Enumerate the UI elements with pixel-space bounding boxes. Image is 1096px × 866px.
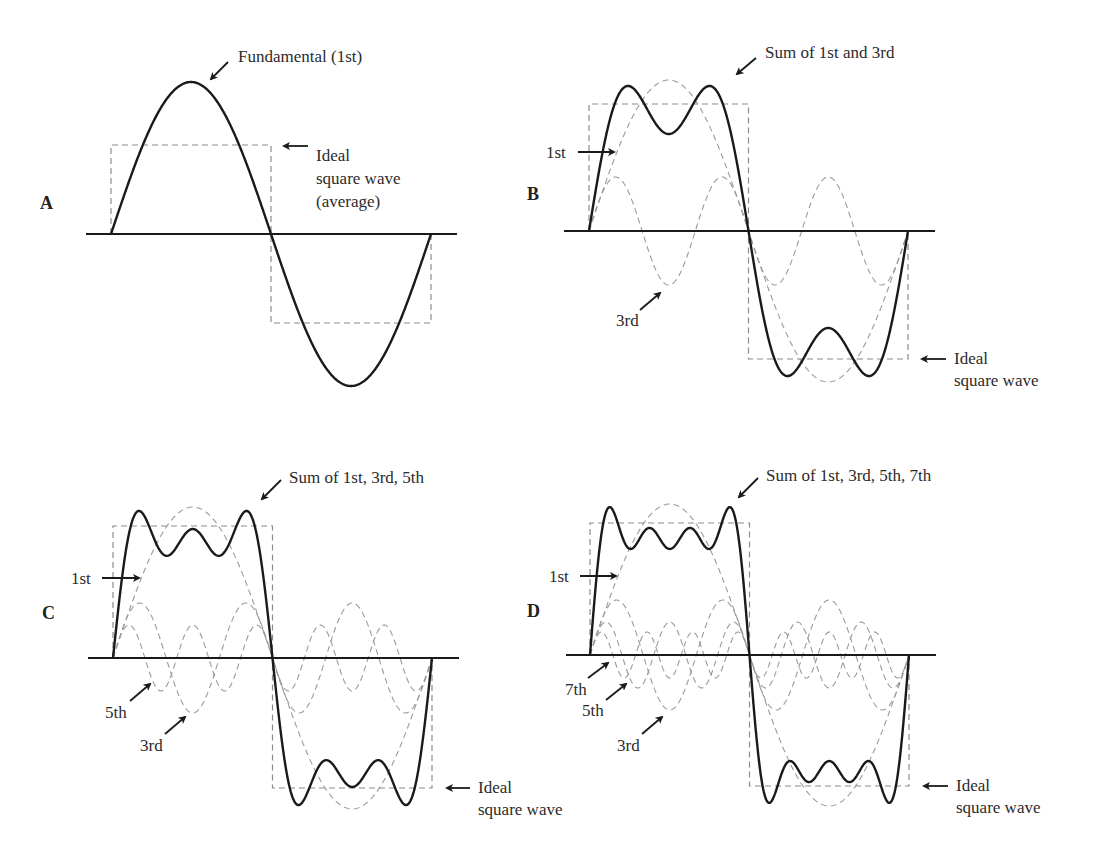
label-harmonic-3rd-b: 3rd [616, 310, 639, 332]
arrow-icon [737, 58, 756, 74]
label-harmonic-3rd-d: 3rd [617, 735, 640, 757]
label-sum-d: Sum of 1st, 3rd, 5th, 7th [766, 465, 931, 487]
harmonic-waves [111, 80, 909, 809]
panel-letter-a: A [40, 193, 53, 214]
label-ideal-a-line1: Ideal [316, 145, 350, 167]
label-ideal-b-line2: square wave [954, 370, 1039, 392]
fourier-figure: A B C D Fundamental (1st) Ideal square w… [0, 0, 1096, 866]
label-sum-c: Sum of 1st, 3rd, 5th [289, 467, 424, 489]
arrow-icon [130, 684, 150, 701]
sum-waves [113, 86, 909, 805]
waveform-canvas [0, 0, 1096, 866]
arrow-icon [165, 717, 185, 734]
label-ideal-c-line2: square wave [478, 799, 563, 821]
arrow-icon [588, 663, 608, 678]
label-harmonic-7th-d: 7th [565, 679, 587, 701]
arrow-icon [739, 478, 758, 497]
panel-letter-b: B [527, 184, 539, 205]
label-harmonic-1st-d: 1st [549, 566, 569, 588]
label-ideal-d-line1: Ideal [956, 775, 990, 797]
label-sum-b: Sum of 1st and 3rd [765, 42, 894, 64]
label-ideal-b-line1: Ideal [954, 348, 988, 370]
label-harmonic-3rd-c: 3rd [140, 735, 163, 757]
arrow-icon [642, 717, 662, 734]
panel-letter-c: C [42, 603, 55, 624]
label-harmonic-5th-d: 5th [582, 700, 604, 722]
label-ideal-a-line2: square wave [316, 168, 401, 190]
label-ideal-a-line3: (average) [316, 191, 380, 213]
arrow-icon [606, 684, 626, 700]
label-ideal-d-line2: square wave [956, 797, 1041, 819]
arrow-icon [640, 293, 660, 310]
arrow-icon [211, 62, 228, 79]
label-harmonic-5th-c: 5th [105, 702, 127, 724]
panel-letter-d: D [527, 601, 540, 622]
arrow-icon [262, 480, 281, 499]
label-harmonic-1st-c: 1st [71, 568, 91, 590]
axes [86, 231, 936, 658]
label-harmonic-1st-b: 1st [546, 142, 566, 164]
label-fundamental: Fundamental (1st) [238, 46, 362, 68]
label-ideal-c-line1: Ideal [478, 777, 512, 799]
